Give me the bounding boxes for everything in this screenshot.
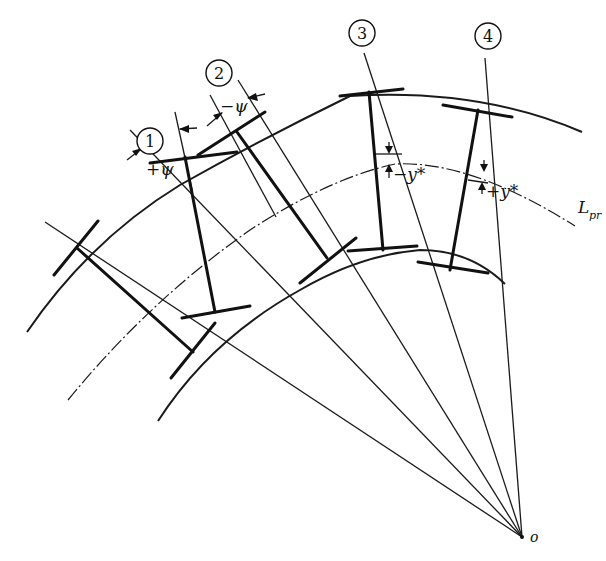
center-point [520,535,524,539]
plus-psi-label: +ψ [146,159,174,179]
tool-4-marker: 4 [475,23,501,49]
outer-arc [27,95,582,332]
tool-2-top-edge [198,112,265,155]
inner-arc [158,250,505,421]
radial-line-4 [485,58,522,537]
minus-y-star-label: −y* [393,164,426,184]
tool-2-marker: 2 [206,60,232,86]
svg-text:2: 2 [214,64,224,83]
diagram-canvas: 1 2 3 4 +ψ −ψ −y* +y* L pr o [0,0,606,561]
svg-text:L: L [577,197,589,217]
svg-text:1: 1 [145,132,155,151]
tool-1-bottom-edge [182,306,250,318]
pitch-line-label: L pr [577,197,602,222]
tool-a-top-edge [54,221,98,275]
svg-text:pr: pr [589,209,602,222]
center-o-label: o [530,529,538,545]
tool-4-body[interactable] [450,110,478,270]
svg-text:3: 3 [357,24,367,43]
tool-a-body[interactable] [77,248,193,352]
plus-y-star-label: +y* [486,181,519,201]
tool-1-body[interactable] [185,157,215,312]
tool-a-bottom-edge [171,323,215,378]
tool-3-body[interactable] [369,92,383,250]
svg-text:4: 4 [483,27,493,46]
radial-line-3 [364,53,522,537]
tool-1-marker: 1 [137,128,163,154]
tool-3-marker: 3 [349,20,375,46]
minus-psi-label: −ψ [220,96,248,116]
radial-line-2 [238,80,522,537]
plus-y-star-marker [468,160,488,194]
